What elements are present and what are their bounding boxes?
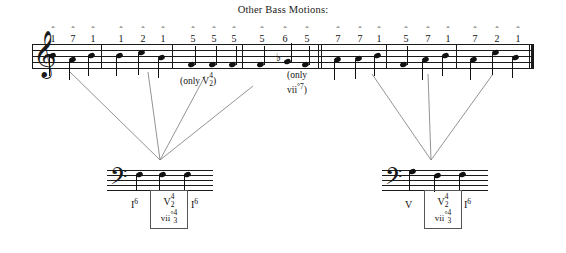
- frac-bottom: 3: [173, 217, 177, 225]
- scale-degree: ˆ 1: [45, 28, 61, 44]
- stem: [470, 61, 471, 80]
- stem: [236, 46, 237, 65]
- degree-number: 1: [113, 33, 129, 44]
- degree-number: 1: [155, 33, 171, 44]
- roman-numeral-text: V: [164, 196, 171, 207]
- chord-option-v42: V42: [154, 193, 184, 208]
- figured-bass-fraction: 42: [445, 193, 449, 208]
- degree-number: 1: [85, 33, 101, 44]
- degree-number: 1: [510, 33, 526, 44]
- figured-bass-sup: 6: [194, 197, 198, 206]
- roman-numeral-text: vii: [435, 213, 445, 223]
- roman-numeral-right-before: V: [405, 196, 412, 210]
- staff-line: [32, 56, 534, 57]
- barline-double: [318, 44, 319, 69]
- degree-number: 2: [489, 33, 505, 44]
- degree-number: 5: [206, 33, 222, 44]
- chord-option-vii043: vii°43: [154, 208, 184, 225]
- stem: [334, 61, 335, 80]
- frac-bottom: 2: [171, 201, 175, 209]
- degree-number: 5: [185, 33, 201, 44]
- stem: [88, 57, 89, 76]
- degree-number: 7: [467, 33, 483, 44]
- scale-degree: ˆ 1: [510, 28, 526, 44]
- stem: [409, 172, 410, 190]
- degree-number: 7: [65, 33, 81, 44]
- staff-line: [32, 50, 534, 51]
- treble-staff: [32, 44, 534, 68]
- annotation-close: ): [304, 85, 307, 95]
- stem: [69, 61, 70, 80]
- degree-number: 1: [45, 33, 61, 44]
- barline-final-thick: [531, 44, 534, 69]
- degree-number: 1: [371, 33, 387, 44]
- scale-degree: ˆ 7: [65, 28, 81, 44]
- scale-degree: ˆ 1: [371, 28, 387, 44]
- chord-option-vii043: vii°43: [428, 208, 458, 225]
- scale-degree: ˆ 7: [352, 28, 368, 44]
- degree-number: 5: [398, 33, 414, 44]
- stem: [264, 46, 265, 65]
- annotation-only-v42: (only V42): [180, 72, 216, 87]
- barline-final-thin: [529, 44, 530, 69]
- roman-numeral-text: vii: [161, 213, 171, 223]
- scale-degree: ˆ 5: [254, 28, 270, 44]
- music-notation-figure: Other Bass Motions: 𝄞: [0, 0, 566, 253]
- scale-degree: ˆ 7: [420, 28, 436, 44]
- scale-degree: ˆ 1: [85, 28, 101, 44]
- barline: [172, 44, 173, 69]
- stem: [374, 57, 375, 76]
- annotation-text: (only V: [180, 76, 209, 86]
- degree-number: 5: [299, 33, 315, 44]
- degree-number: 5: [254, 33, 270, 44]
- staff-line: [32, 68, 534, 69]
- stem: [442, 57, 443, 76]
- barline: [32, 44, 33, 69]
- scale-degree: ˆ 5: [185, 28, 201, 44]
- degree-number: 7: [330, 33, 346, 44]
- barline: [242, 44, 243, 69]
- chord-option-v42: V42: [428, 193, 458, 208]
- scale-degree: ˆ 1: [155, 28, 171, 44]
- roman-numeral-right-after: I6: [464, 196, 471, 210]
- stem: [291, 43, 292, 62]
- roman-numeral-text: V: [405, 199, 412, 210]
- stem: [195, 46, 196, 65]
- degree-number: 2: [135, 33, 151, 44]
- figure-title: Other Bass Motions:: [0, 4, 566, 15]
- scale-degree: ˆ 6: [277, 28, 293, 44]
- annotation-close: ): [213, 76, 216, 86]
- stem: [422, 61, 423, 80]
- barline-double: [321, 44, 322, 69]
- annotation-line1: (only: [287, 70, 307, 81]
- stem: [136, 175, 137, 191]
- roman-vii: vii: [287, 85, 297, 95]
- scale-degree: ˆ 1: [440, 28, 456, 44]
- stem: [407, 46, 408, 65]
- chord-options-box-right: V42 vii°43: [424, 190, 462, 229]
- stem: [184, 175, 185, 191]
- annotation-line2: vii°7): [287, 81, 307, 96]
- degree-number: 6: [277, 33, 293, 44]
- figured-bass-fraction: 42: [171, 193, 175, 208]
- barline: [386, 44, 387, 69]
- stem: [49, 57, 50, 76]
- staff-line: [32, 44, 534, 45]
- scale-degree: ˆ 7: [330, 28, 346, 44]
- roman-numeral-text: V: [438, 196, 445, 207]
- stem: [116, 57, 117, 76]
- degree-number: 1: [440, 33, 456, 44]
- stem: [459, 175, 460, 191]
- barline: [101, 44, 102, 69]
- stem: [512, 59, 513, 78]
- barline: [456, 44, 457, 69]
- stem: [216, 46, 217, 65]
- figured-bass-sup: 6: [467, 197, 471, 206]
- frac-bottom: 2: [445, 201, 449, 209]
- scale-degree: ˆ 5: [398, 28, 414, 44]
- degree-number: 7: [352, 33, 368, 44]
- figured-bass-fraction: 43: [447, 209, 451, 224]
- bass-clef-icon-right: 𝄢: [385, 165, 402, 192]
- scale-degree: ˆ 5: [226, 28, 242, 44]
- stem: [309, 46, 310, 65]
